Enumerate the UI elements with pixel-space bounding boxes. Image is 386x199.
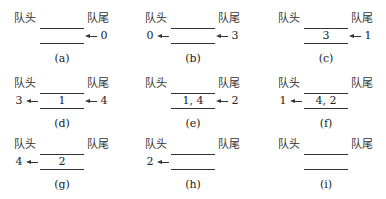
dequeued-value: 0 <box>147 30 154 42</box>
arrow-left-icon <box>349 32 361 40</box>
panel-caption: (c) <box>304 53 348 65</box>
queue-contents: 2 <box>40 156 84 168</box>
queue-panel-h: 队头 队尾 2 (h) <box>131 139 259 199</box>
queue-head-label: 队头 <box>278 13 300 25</box>
queue-tail-label: 队尾 <box>351 78 373 90</box>
dequeue-indicator: 2 <box>147 156 170 168</box>
queue-head-label: 队头 <box>278 78 300 90</box>
dequeue-indicator: 3 <box>16 95 39 107</box>
queue-head-label: 队头 <box>278 139 300 151</box>
enqueue-indicator: 1 <box>349 30 372 42</box>
queue-panel-b: 队头 队尾 0 3 (b) <box>131 13 259 75</box>
queue-head-label: 队头 <box>145 13 167 25</box>
queue-tail-label: 队尾 <box>87 78 109 90</box>
queue-bottom-line <box>304 43 348 44</box>
enqueue-indicator: 2 <box>216 95 239 107</box>
dequeue-indicator: 0 <box>147 30 170 42</box>
enqueued-value: 4 <box>101 95 108 107</box>
queue-top-line <box>171 154 215 155</box>
enqueued-value: 2 <box>232 95 239 107</box>
queue-tail-label: 队尾 <box>218 78 240 90</box>
queue-bottom-line <box>40 108 84 109</box>
arrow-left-icon <box>216 32 228 40</box>
queue-top-line <box>171 28 215 29</box>
dequeued-value: 3 <box>16 95 23 107</box>
arrow-left-icon <box>157 158 169 166</box>
queue-head-label: 队头 <box>145 78 167 90</box>
queue-bottom-line <box>171 169 215 170</box>
panel-caption: (a) <box>40 53 84 65</box>
queue-tail-label: 队尾 <box>218 139 240 151</box>
queue-top-line <box>304 154 348 155</box>
queue-top-line <box>40 28 84 29</box>
panel-caption: (d) <box>40 118 84 130</box>
queue-panel-g: 队头 队尾 2 4 (g) <box>0 139 128 199</box>
panel-caption: (f) <box>304 118 348 130</box>
queue-panel-i: 队头 队尾 (i) <box>264 139 386 199</box>
enqueue-indicator: 3 <box>216 30 239 42</box>
queue-bottom-line <box>304 169 348 170</box>
queue-contents: 1 <box>40 95 84 107</box>
queue-bottom-line <box>171 43 215 44</box>
queue-panel-f: 队头 队尾 4, 2 1 (f) <box>264 78 386 140</box>
queue-contents: 3 <box>304 30 348 42</box>
queue-head-label: 队头 <box>14 13 36 25</box>
queue-head-label: 队头 <box>14 139 36 151</box>
arrow-left-icon <box>157 32 169 40</box>
queue-contents: 1, 4 <box>171 95 215 107</box>
dequeue-indicator: 1 <box>280 95 303 107</box>
arrow-left-icon <box>26 158 38 166</box>
queue-panel-a: 队头 队尾 0 (a) <box>0 13 128 75</box>
queue-panel-d: 队头 队尾 1 3 4 (d) <box>0 78 128 140</box>
queue-tail-label: 队尾 <box>218 13 240 25</box>
enqueue-indicator: 4 <box>85 95 108 107</box>
panel-caption: (h) <box>171 179 215 191</box>
queue-tail-label: 队尾 <box>87 139 109 151</box>
queue-tail-label: 队尾 <box>351 139 373 151</box>
panel-caption: (g) <box>40 179 84 191</box>
queue-head-label: 队头 <box>145 139 167 151</box>
queue-tail-label: 队尾 <box>351 13 373 25</box>
enqueue-indicator: 0 <box>85 30 108 42</box>
enqueued-value: 1 <box>365 30 372 42</box>
queue-tail-label: 队尾 <box>87 13 109 25</box>
queue-panel-c: 队头 队尾 3 1 (c) <box>264 13 386 75</box>
queue-bottom-line <box>40 43 84 44</box>
dequeued-value: 1 <box>280 95 287 107</box>
queue-panel-e: 队头 队尾 1, 4 2 (e) <box>131 78 259 140</box>
panel-caption: (b) <box>171 53 215 65</box>
panel-caption: (i) <box>304 179 348 191</box>
queue-bottom-line <box>171 108 215 109</box>
arrow-left-icon <box>85 32 97 40</box>
enqueued-value: 0 <box>101 30 108 42</box>
arrow-left-icon <box>216 97 228 105</box>
arrow-left-icon <box>290 97 302 105</box>
panel-caption: (e) <box>171 118 215 130</box>
queue-contents: 4, 2 <box>304 95 348 107</box>
dequeue-indicator: 4 <box>16 156 39 168</box>
queue-bottom-line <box>40 169 84 170</box>
arrow-left-icon <box>26 97 38 105</box>
arrow-left-icon <box>85 97 97 105</box>
queue-bottom-line <box>304 108 348 109</box>
dequeued-value: 2 <box>147 156 154 168</box>
enqueued-value: 3 <box>232 30 239 42</box>
queue-head-label: 队头 <box>14 78 36 90</box>
dequeued-value: 4 <box>16 156 23 168</box>
